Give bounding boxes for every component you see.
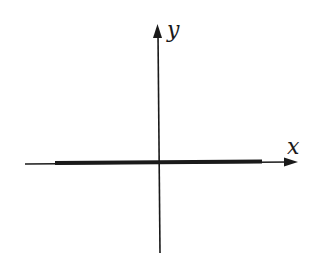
y-axis-label: y: [166, 17, 180, 42]
highlighted-segment: [55, 162, 262, 164]
x-axis-label: x: [287, 134, 300, 159]
coordinate-diagram: y x: [0, 0, 312, 253]
